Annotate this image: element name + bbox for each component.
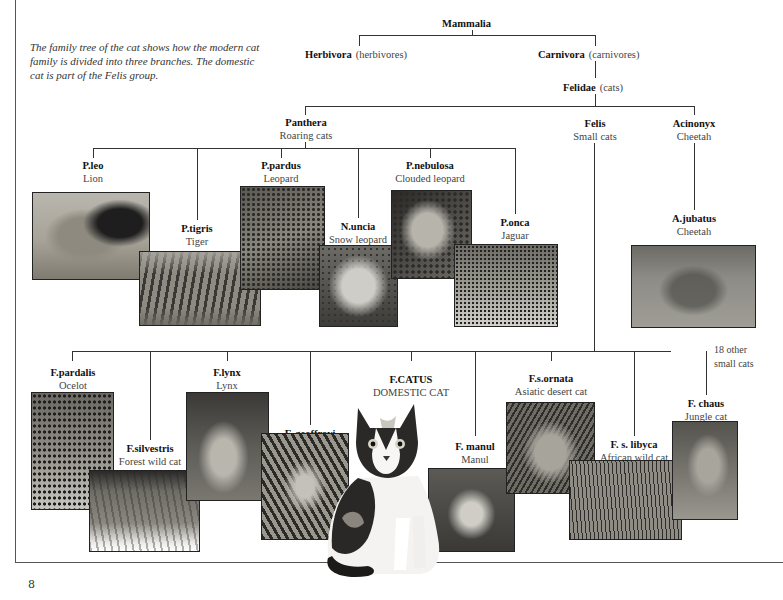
node-common: Clouded leopard (390, 172, 470, 185)
node-sci: A.jubatus (664, 212, 724, 225)
node-common: Lion (63, 172, 123, 185)
tree-line (694, 106, 695, 115)
page-border-left (15, 0, 16, 562)
note-line: 18 other (714, 343, 754, 357)
tree-line (595, 35, 596, 46)
jungle-cat-photo (672, 421, 738, 520)
jaguar-photo (454, 244, 558, 327)
node-common: Asiatic desert cat (506, 385, 596, 398)
species-label-clouded-leopard: P.nebulosa Clouded leopard (390, 159, 470, 185)
node-sci: Felidae (563, 82, 596, 93)
node-common: Small cats (565, 130, 625, 143)
species-label-tiger: P.tigris Tiger (167, 222, 227, 248)
species-label-snow-leopard: N.uncia Snow leopard (323, 220, 393, 246)
tree-line (93, 148, 94, 158)
african-wild-cat-photo (569, 460, 682, 540)
species-label-forest-wild-cat: F.silvestris Forest wild cat (110, 442, 190, 468)
node-sci: P.pardus (251, 159, 311, 172)
domestic-cat-icon (318, 398, 448, 578)
node-sci: Felis (565, 117, 625, 130)
tree-line (358, 148, 359, 218)
cheetah-photo (631, 245, 756, 328)
node-sci: F.s.ornata (506, 372, 596, 385)
tree-line (227, 351, 228, 361)
note-line: small cats (714, 357, 754, 371)
node-felidae: Felidae(cats) (563, 81, 623, 94)
page-number: 8 (28, 578, 35, 591)
intro-caption: The family tree of the cat shows how the… (30, 40, 260, 82)
node-common: Jaguar (485, 229, 545, 242)
node-common: Cheetah (664, 130, 724, 143)
tree-line (281, 148, 282, 158)
species-label-jaguar: P.onca Jaguar (485, 216, 545, 242)
lynx-photo (186, 392, 269, 501)
node-sci: P.tigris (167, 222, 227, 235)
tree-line (411, 351, 412, 361)
node-acinonyx: Acinonyx Cheetah (664, 117, 724, 143)
tree-line (359, 35, 360, 46)
tree-line (634, 351, 635, 436)
node-common: (herbivores) (356, 49, 407, 60)
node-sci: P.onca (485, 216, 545, 229)
node-herbivora: Herbivora(herbivores) (305, 48, 407, 61)
node-sci: F.lynx (197, 366, 257, 379)
node-sci: P.nebulosa (390, 159, 470, 172)
species-label-cheetah: A.jubatus Cheetah (664, 212, 724, 238)
node-sci: F.pardalis (38, 366, 108, 379)
lion-photo (32, 192, 150, 280)
node-panthera: Panthera Roaring cats (276, 116, 336, 142)
species-label-asiatic-desert-cat: F.s.ornata Asiatic desert cat (506, 372, 596, 398)
tree-line (595, 94, 596, 106)
node-mammalia: Mammalia (442, 17, 491, 30)
node-sci: P.leo (63, 159, 123, 172)
node-sci: F.CATUS (366, 373, 456, 386)
species-label-ocelot: F.pardalis Ocelot (38, 366, 108, 392)
domestic-cat-photo (318, 398, 448, 578)
tree-line (551, 351, 552, 361)
tree-line (305, 106, 694, 107)
node-sci: N.uncia (323, 220, 393, 233)
forest-wild-cat-photo (89, 470, 200, 552)
node-felis: Felis Small cats (565, 117, 625, 143)
node-sci: Acinonyx (664, 117, 724, 130)
tree-line (72, 351, 671, 352)
species-label-manul: F. manul Manul (445, 440, 505, 466)
node-common: (carnivores) (589, 49, 640, 60)
tree-line (515, 148, 516, 214)
node-carnivora: Carnivora(carnivores) (538, 48, 639, 61)
snow-leopard-photo (319, 245, 398, 327)
tree-line (93, 148, 516, 149)
node-sci: F. chaus (676, 397, 736, 410)
tree-line (150, 351, 151, 440)
leopard-photo (240, 186, 325, 290)
node-sci: F.silvestris (110, 442, 190, 455)
species-label-lion: P.leo Lion (63, 159, 123, 185)
tree-line (430, 148, 431, 158)
node-sci: Panthera (276, 116, 336, 129)
tree-line (706, 351, 707, 395)
species-label-leopard: P.pardus Leopard (251, 159, 311, 185)
node-common: Forest wild cat (110, 455, 190, 468)
book-page: 8 The family tree of the cat shows how t… (0, 0, 783, 600)
node-sci: Herbivora (305, 49, 352, 60)
tree-line (359, 35, 595, 36)
node-sci: F. s. libyca (594, 438, 674, 451)
node-sci: Carnivora (538, 49, 585, 60)
tree-line (197, 148, 198, 220)
species-label-jungle-cat: F. chaus Jungle cat (676, 397, 736, 423)
tree-line (475, 351, 476, 436)
tree-line (305, 106, 306, 115)
other-small-cats-note: 18 other small cats (714, 343, 754, 371)
tree-line (595, 61, 596, 78)
tree-line (72, 351, 73, 361)
node-common: Cheetah (664, 225, 724, 238)
tree-line (310, 351, 311, 425)
tree-line (694, 143, 695, 210)
node-common: Roaring cats (276, 129, 336, 142)
node-common: (cats) (600, 82, 623, 93)
node-common: Manul (445, 453, 505, 466)
tree-line (594, 143, 595, 351)
node-common: Ocelot (38, 379, 108, 392)
species-label-lynx: F.lynx Lynx (197, 366, 257, 392)
node-sci: F. manul (445, 440, 505, 453)
